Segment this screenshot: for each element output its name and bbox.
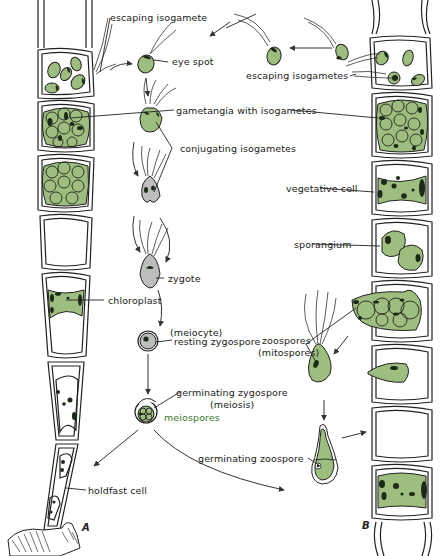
germinating-zoospore (312, 424, 338, 484)
sporangium-cell (382, 231, 423, 271)
resting-zygospore (138, 331, 158, 351)
isogametes-in-cell (45, 56, 88, 93)
cycle-arrows (94, 22, 366, 490)
label-germinating-zoospore: germinating zoospore (198, 453, 304, 464)
panel-label-b: B (362, 520, 370, 531)
label-chloroplast: chloroplast (108, 295, 161, 306)
label-meiosis: (meiosis) (210, 399, 254, 410)
gametangium-cluster-a2 (42, 162, 88, 206)
label-gametangia-with-isogametes: gametangia with isogametes (176, 105, 317, 116)
gametangium-cluster-b (376, 100, 427, 152)
label-holdfast-cell: holdfast cell (88, 485, 147, 496)
label-sporangium: sporangium (294, 239, 352, 250)
label-zygote: zygote (168, 273, 201, 284)
zoospore-in-cell-6 (368, 363, 409, 382)
label-mitospores: (mitospores) (258, 347, 319, 358)
isogamete-eye-spot (135, 22, 176, 75)
germinating-zygospore (135, 398, 157, 423)
label-eye-spot: eye spot (172, 56, 214, 67)
label-conjugating-isogametes: conjugating isogametes (180, 143, 296, 154)
gametangium-cluster-a1 (42, 108, 89, 147)
vegetative-cell-b-bottom (378, 473, 427, 508)
leader-lines (66, 14, 380, 490)
label-vegetative-cell: vegetative cell (286, 183, 358, 194)
chloroplast-band-a (48, 290, 84, 318)
label-resting-zygospore: resting zygospore (174, 336, 260, 347)
panel-label-a: A (82, 522, 90, 533)
label-meiospores: meiospores (164, 412, 220, 423)
label-escaping-isogamete: escaping isogamete (110, 12, 207, 23)
conjugating-isogametes (142, 146, 167, 202)
fusing-gamete-pair (140, 78, 176, 132)
zoospores-in-cell (352, 290, 421, 330)
label-escaping-isogametes: escaping isogametes (246, 70, 348, 81)
label-zoospores: zoospores (262, 335, 311, 346)
vegetative-cell-chloroplast (378, 176, 427, 204)
escaping-isogametes-b (234, 14, 392, 78)
label-germinating-zygospore: germinating zygospore (176, 387, 288, 398)
ulothrix-life-cycle-diagram (0, 0, 444, 556)
isogametes-in-cell-b (373, 49, 426, 88)
